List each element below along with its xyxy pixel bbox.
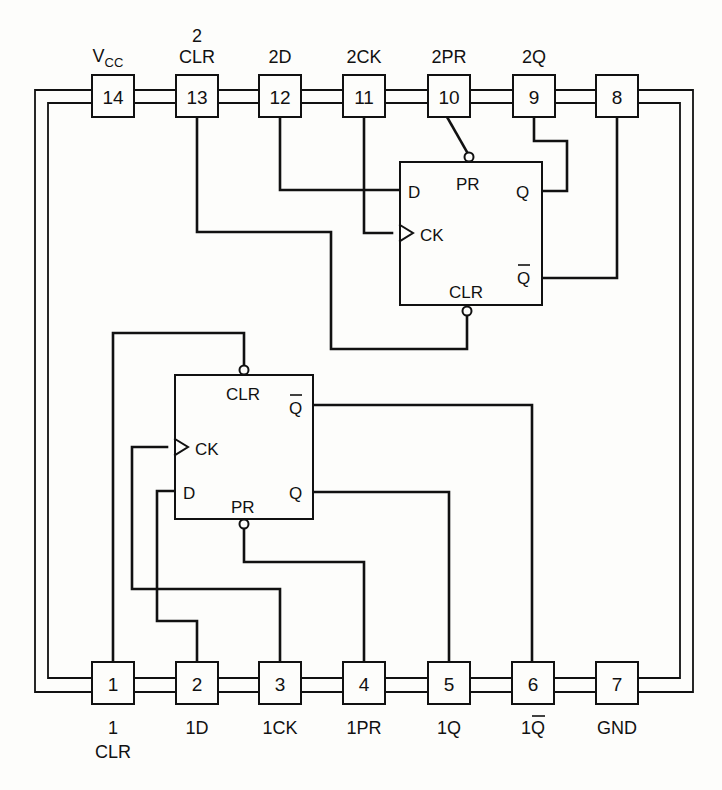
- svg-text:8: 8: [612, 87, 623, 108]
- ff2-label-d: D: [408, 183, 420, 202]
- svg-text:5: 5: [444, 674, 455, 695]
- ff1-label-qbar: Q: [289, 399, 302, 418]
- svg-text:10: 10: [438, 87, 459, 108]
- wire-pin10-ff2-pr: [447, 117, 467, 152]
- ff1-label-d: D: [183, 484, 195, 503]
- ff1-label-q: Q: [289, 484, 302, 503]
- pin-2-label: 1D: [185, 718, 208, 738]
- pin-9: 9 2Q: [513, 47, 555, 117]
- svg-text:1: 1: [108, 674, 119, 695]
- pin-3-label: 1CK: [262, 718, 297, 738]
- wire-ff1-q-pin5: [313, 492, 449, 662]
- pin-7: 7 GND: [596, 662, 638, 738]
- pin-3: 3 1CK: [259, 662, 301, 738]
- ff1-clr-bubble: [240, 366, 249, 375]
- pin-11-label: 2CK: [346, 47, 381, 67]
- svg-text:2: 2: [192, 674, 203, 695]
- ff2-label-qbar: Q: [517, 269, 530, 288]
- ff2-label-pr: PR: [456, 175, 480, 194]
- pin-2: 2 1D: [176, 662, 218, 738]
- pin-12: 12 2D: [259, 47, 301, 117]
- pin-7-label: GND: [597, 718, 637, 738]
- svg-text:6: 6: [528, 674, 539, 695]
- pin-13: 13 2 CLR: [176, 26, 218, 117]
- pin-5-label: 1Q: [437, 718, 461, 738]
- pin-13-label-line1: 2: [192, 26, 202, 46]
- pin-11: 11 2CK: [343, 47, 385, 117]
- wire-pin4-ff1-pr: [244, 529, 364, 662]
- svg-text:12: 12: [269, 87, 290, 108]
- pin-14: 14 VCC: [92, 46, 134, 117]
- pin-6: 6 1Q: [512, 662, 554, 738]
- ff2-clr-bubble: [463, 307, 472, 316]
- ff2-label-ck: CK: [420, 226, 444, 245]
- ff2-label-q: Q: [516, 183, 529, 202]
- ff2-label-clr: CLR: [449, 283, 483, 302]
- pin-14-label: VCC: [93, 46, 124, 70]
- wire-pin12-ff2-d: [280, 117, 400, 190]
- pin-4-label: 1PR: [346, 718, 381, 738]
- svg-text:9: 9: [529, 87, 540, 108]
- pin-6-label: 1Q: [521, 718, 545, 738]
- pin-10: 10 2PR: [428, 47, 470, 117]
- svg-text:4: 4: [359, 674, 370, 695]
- pin-8: 8: [596, 75, 638, 117]
- ff1-pr-bubble: [240, 520, 249, 529]
- pin-1-label-line1: 1: [108, 718, 118, 738]
- pin-4: 4 1PR: [343, 662, 385, 738]
- pin-5: 5 1Q: [428, 662, 470, 738]
- svg-text:7: 7: [612, 674, 623, 695]
- ff1-label-pr: PR: [231, 498, 255, 517]
- ff2-pr-bubble: [465, 153, 474, 162]
- ff1-label-ck: CK: [195, 440, 219, 459]
- ff1-label-clr: CLR: [226, 385, 260, 404]
- wire-pin11-ff2-ck: [364, 117, 392, 233]
- pin-12-label: 2D: [268, 47, 291, 67]
- svg-text:14: 14: [102, 87, 124, 108]
- bottom-pins: 1 1 CLR 2 1D 3 1CK 4 1PR 5 1Q 6 1Q: [92, 662, 638, 762]
- dual-d-flip-flop-pinout-diagram: PR D CK Q Q CLR CLR Q CK D Q PR 14 VCC 1…: [0, 0, 722, 790]
- pin-1-label-line2: CLR: [95, 742, 131, 762]
- svg-text:3: 3: [275, 674, 286, 695]
- svg-text:11: 11: [354, 87, 374, 108]
- pin-1: 1 1 CLR: [92, 662, 134, 762]
- wire-ff1-qbar-pin6: [313, 405, 532, 662]
- flip-flop-1: CLR Q CK D Q PR: [175, 366, 313, 529]
- pin-10-label: 2PR: [431, 47, 466, 67]
- svg-text:13: 13: [186, 87, 207, 108]
- pin-9-label: 2Q: [522, 47, 546, 67]
- flip-flop-2: PR D CK Q Q CLR: [400, 153, 542, 316]
- pin-13-label-line2: CLR: [179, 47, 215, 67]
